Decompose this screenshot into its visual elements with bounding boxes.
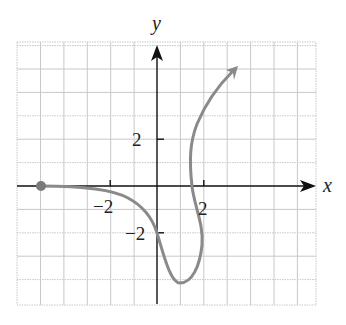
y-tick-label-neg2: −2 — [125, 223, 145, 244]
function-graph: y x −2 2 2 −2 — [0, 0, 346, 325]
y-tick-label-pos2: 2 — [132, 129, 142, 150]
function-curve — [36, 66, 238, 283]
x-axis-label: x — [322, 174, 332, 196]
x-tick-label-pos2: 2 — [198, 198, 208, 219]
y-axis-label: y — [150, 12, 161, 35]
x-tick-label-neg2: −2 — [93, 196, 113, 217]
closed-endpoint-dot — [36, 181, 46, 191]
